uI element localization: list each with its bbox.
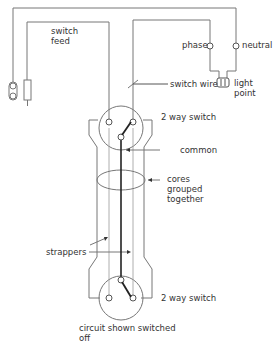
bottom-switch-label: 2 way switch [161,293,216,303]
phase-terminal-icon [207,43,213,49]
neutral-label: neutral [242,40,272,50]
terminal-icon [106,295,112,301]
wiring-diagram [0,0,276,345]
switch-feed-label: switch feed [51,26,78,46]
light-point-icon [217,78,229,87]
circuit-state-caption: circuit shown switched off [79,323,176,343]
phase-label: phase [182,40,208,50]
neutral-drop [227,49,236,78]
strappers-label: strappers [46,247,86,257]
top-switch-label: 2 way switch [161,112,216,122]
bottom-switch-lever [122,282,131,297]
fuse-icon [24,80,31,100]
switch-wire-label: switch wire [170,79,218,89]
neutral-terminal-icon [233,43,239,49]
light-point-label: light point [234,78,256,98]
common-label: common [180,145,217,155]
strapper-pointer-1 [90,238,106,245]
phase-drop [210,49,219,78]
terminal-icon [106,119,112,125]
top-switch-lever [122,122,131,135]
switch-wire-conductor [133,20,210,122]
cores-grouped-label: cores grouped together [167,174,204,204]
